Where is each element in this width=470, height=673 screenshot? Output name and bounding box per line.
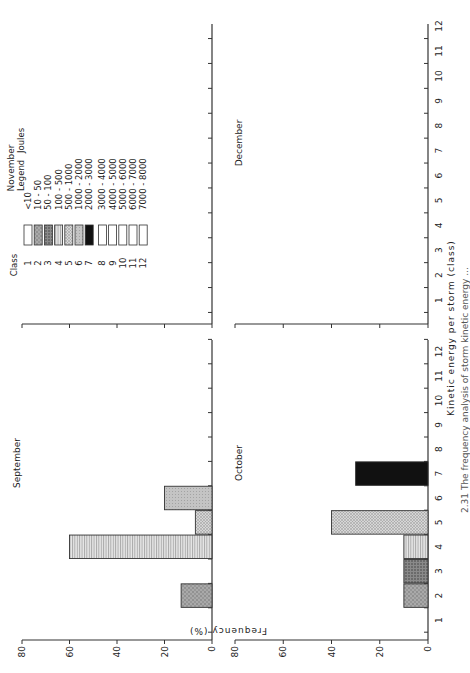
bar-class-7 [356, 462, 428, 486]
legend-swatch-class-3 [44, 225, 52, 245]
legend-range-label: 50 - 100 [43, 174, 53, 210]
legend-range-label: 7000 - 8000 [138, 158, 148, 210]
legend-swatch-class-10 [119, 225, 127, 245]
legend-rows: 1<10210 - 50350 - 1004100 - 5005500 - 10… [23, 158, 148, 268]
bar-class-4 [70, 535, 213, 559]
x-tick-label: 8 [434, 123, 444, 129]
legend-range-label: 6000 - 7000 [128, 158, 138, 210]
legend-class-label: 2 [33, 260, 43, 265]
y-tick-label: 0 [423, 646, 433, 652]
legend-range-label: <10 [23, 192, 33, 210]
y-tick-label: 40 [327, 646, 337, 658]
legend-swatch-class-8 [98, 225, 106, 245]
legend-range-label: 100 - 500 [54, 169, 64, 210]
figure-caption-fragment: 2.31 The frequency analysis of storm kin… [460, 267, 470, 513]
x-tick-label: 11 [434, 370, 444, 381]
legend-swatch-class-4 [55, 225, 63, 245]
x-tick-label: 10 [434, 70, 444, 82]
y-axis-title: Frequency (%) [189, 626, 267, 636]
x-tick-label: 4 [434, 222, 444, 228]
bar-class-2 [404, 584, 428, 608]
bar-class-3 [404, 559, 428, 583]
x-tick-label: 1 [434, 297, 444, 303]
panel-december: 123456789101112December [234, 20, 444, 328]
x-tick-label: 1 [434, 617, 444, 623]
legend: NovemberClassLegendJoules1<10210 - 50350… [6, 127, 148, 276]
x-tick-label: 5 [434, 520, 444, 526]
legend-class-label: 5 [64, 260, 74, 265]
rotated-figure: 020406080September0204060801234567891011… [0, 0, 470, 673]
x-tick-label: 6 [434, 172, 444, 178]
legend-header-legend: Legend [16, 160, 26, 191]
legend-class-label: 4 [54, 260, 64, 265]
y-tick-label: 80 [230, 646, 240, 658]
legend-range-label: 5000 - 6000 [118, 158, 128, 210]
y-tick-label: 40 [112, 646, 122, 658]
legend-class-label: 6 [74, 260, 84, 265]
legend-range-label: 3000 - 4000 [97, 158, 107, 210]
legend-swatch-class-2 [34, 225, 42, 245]
legend-class-label: 9 [108, 260, 118, 265]
x-tick-label: 3 [434, 568, 444, 574]
legend-range-label: 2000 - 3000 [84, 158, 94, 210]
panel-title: September [12, 438, 22, 488]
legend-swatch-class-5 [65, 225, 73, 245]
legend-swatch-class-11 [129, 225, 137, 245]
x-tick-label: 12 [434, 346, 444, 357]
panel-october: 020406080123456789101112October [230, 339, 444, 657]
x-tick-label: 9 [434, 98, 444, 104]
legend-range-label: 10 - 50 [33, 180, 43, 210]
chart-group: 020406080September0204060801234567891011… [6, 20, 470, 657]
legend-class-label: 1 [23, 260, 33, 265]
x-axis-title: Kinetic energy per storm (class) [446, 240, 456, 416]
panel-title-november: November [6, 144, 16, 191]
figure-svg: 020406080September0204060801234567891011… [0, 0, 470, 673]
x-tick-label: 11 [434, 45, 444, 56]
bar-class-2 [181, 584, 212, 608]
y-tick-label: 60 [278, 646, 288, 658]
y-tick-label: 20 [160, 646, 170, 658]
panel-title: December [234, 119, 244, 166]
x-tick-label: 9 [434, 422, 444, 428]
x-tick-label: 5 [434, 198, 444, 204]
x-tick-label: 8 [434, 446, 444, 452]
legend-swatch-class-12 [139, 225, 147, 245]
legend-swatch-class-7 [85, 225, 93, 245]
x-tick-label: 7 [434, 471, 444, 477]
panel-september: 020406080September [12, 339, 217, 657]
legend-range-label: 500 - 1000 [64, 164, 74, 210]
legend-class-label: 10 [118, 258, 128, 269]
x-tick-label: 6 [434, 495, 444, 501]
legend-swatch-class-9 [109, 225, 117, 245]
bar-class-5 [332, 511, 429, 535]
y-tick-label: 0 [207, 646, 217, 652]
x-tick-label: 7 [434, 148, 444, 154]
x-tick-label: 10 [434, 394, 444, 406]
bar-class-4 [404, 535, 428, 559]
legend-class-label: 8 [97, 260, 107, 265]
panel-title: October [234, 445, 244, 481]
x-tick-label: 2 [434, 593, 444, 599]
legend-swatch-class-1 [24, 225, 32, 245]
bar-class-5 [195, 511, 212, 535]
legend-class-label: 11 [128, 258, 138, 269]
y-tick-label: 20 [375, 646, 385, 658]
x-tick-label: 2 [434, 272, 444, 278]
legend-range-label: 4000 - 5000 [108, 158, 118, 210]
legend-swatch-class-6 [75, 225, 83, 245]
legend-range-label: 1000 - 2000 [74, 158, 84, 210]
x-tick-label: 4 [434, 544, 444, 550]
y-tick-label: 60 [65, 646, 75, 658]
legend-header-joules: Joules [16, 127, 26, 154]
legend-class-label: 12 [138, 258, 148, 269]
legend-class-label: 7 [84, 260, 94, 265]
legend-class-label: 3 [43, 260, 53, 265]
y-tick-label: 80 [17, 646, 27, 658]
bar-class-6 [165, 486, 213, 510]
x-tick-label: 3 [434, 247, 444, 253]
x-tick-label: 12 [434, 20, 444, 31]
legend-header-class: Class [9, 253, 19, 276]
